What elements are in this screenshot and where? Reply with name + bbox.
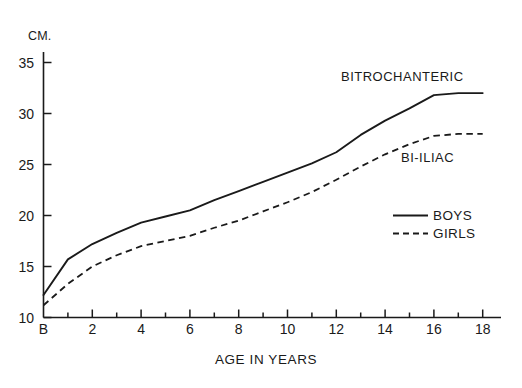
x-axis-ticks bbox=[68, 310, 483, 318]
x-tick-label: 10 bbox=[275, 322, 301, 336]
x-tick-label: 6 bbox=[177, 322, 203, 336]
y-axis-unit-label: CM. bbox=[28, 30, 52, 43]
x-axis-title: AGE IN YEARS bbox=[196, 353, 336, 367]
x-tick-label: 18 bbox=[470, 322, 496, 336]
x-tick-label: B bbox=[31, 322, 57, 336]
y-tick-label: 35 bbox=[8, 56, 34, 70]
x-tick-label: 14 bbox=[372, 322, 398, 336]
y-axis-ticks bbox=[44, 63, 52, 318]
series-line-boys bbox=[44, 93, 483, 295]
y-tick-label: 25 bbox=[8, 158, 34, 172]
x-tick-label: 2 bbox=[79, 322, 105, 336]
axes bbox=[44, 52, 502, 318]
y-tick-label: 15 bbox=[8, 260, 34, 274]
annotation-bitrochanteric: BITROCHANTERIC bbox=[341, 70, 464, 83]
legend-label-boys: BOYS bbox=[433, 209, 472, 223]
annotation-bi-iliac: BI-ILIAC bbox=[401, 151, 454, 164]
x-tick-label: 12 bbox=[323, 322, 349, 336]
x-tick-label: 4 bbox=[128, 322, 154, 336]
y-tick-label: 30 bbox=[8, 107, 34, 121]
y-tick-label: 20 bbox=[8, 209, 34, 223]
chart-figure: CM. 101520253035 B24681012141618 AGE IN … bbox=[0, 0, 522, 388]
x-tick-label: 16 bbox=[421, 322, 447, 336]
x-tick-label: 8 bbox=[226, 322, 252, 336]
legend-label-girls: GIRLS bbox=[433, 227, 476, 241]
